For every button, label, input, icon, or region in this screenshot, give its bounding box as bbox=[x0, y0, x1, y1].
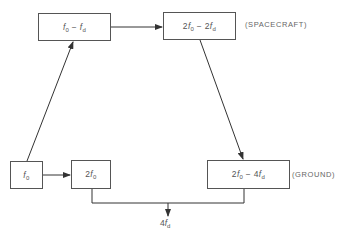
node-label: f0 − fd bbox=[63, 22, 86, 33]
node-label: f0 bbox=[23, 170, 29, 181]
node-2f0-minus-4fd: 2f0 − 4fd bbox=[207, 160, 290, 189]
op: − bbox=[69, 22, 80, 32]
sub2: d bbox=[213, 26, 217, 32]
sub2: d bbox=[262, 174, 266, 180]
node-label: 2f0 − 2fd bbox=[183, 21, 216, 32]
node-f0-minus-fd: f0 − fd bbox=[38, 13, 111, 41]
node-2f0-minus-2fd: 2f0 − 2fd bbox=[163, 12, 236, 40]
combine-line bbox=[92, 189, 244, 203]
arrow-f0-to-f0-minus-fd bbox=[27, 42, 73, 161]
node-label: 2f0 − 4fd bbox=[232, 169, 265, 180]
node-label: 2f0 bbox=[85, 169, 96, 180]
op: − bbox=[243, 169, 254, 179]
sub: 0 bbox=[26, 175, 30, 181]
arrow-2f0-minus-2fd-to-2f0-minus-4fd bbox=[200, 40, 243, 159]
node-2f0: 2f0 bbox=[71, 160, 111, 189]
sub: d bbox=[167, 223, 170, 229]
spacecraft-label: (SPACECRAFT) bbox=[245, 20, 307, 29]
node-f0: f0 bbox=[10, 161, 43, 189]
sub2: d bbox=[82, 27, 86, 33]
ground-label: (GROUND) bbox=[292, 170, 335, 179]
op: − bbox=[194, 21, 205, 31]
sub: 0 bbox=[93, 174, 97, 180]
output-4fd-label: 4fd bbox=[160, 218, 170, 229]
